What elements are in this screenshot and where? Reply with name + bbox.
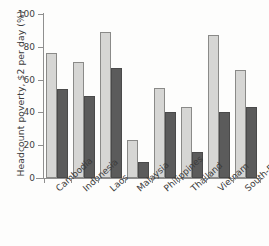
x-axis-tick xyxy=(206,178,207,183)
bar-chart: Headcount poverty, $2 per day (%) 020406… xyxy=(0,0,269,246)
x-axis-label: Laos xyxy=(108,172,130,193)
x-axis-labels: CambodiaIndonesiaLaosMalaysiaPhilippines… xyxy=(0,0,269,246)
x-axis-tick xyxy=(260,178,261,183)
x-axis-tick xyxy=(44,178,45,183)
x-axis-tick xyxy=(179,178,180,183)
x-axis-tick xyxy=(98,178,99,183)
x-axis-tick xyxy=(152,178,153,183)
x-axis-tick xyxy=(125,178,126,183)
x-axis-tick xyxy=(71,178,72,183)
x-axis-tick xyxy=(233,178,234,183)
